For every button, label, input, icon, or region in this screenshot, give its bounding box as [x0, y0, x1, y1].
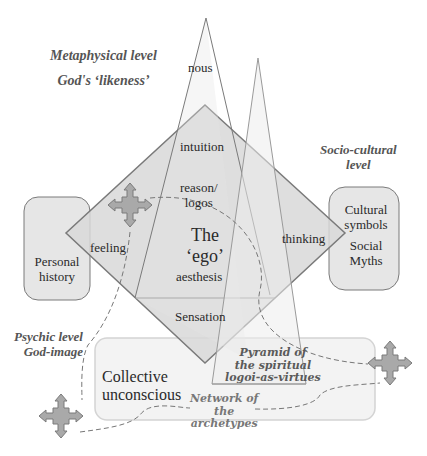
pyramid-line3: logoi-as-virtues	[225, 372, 321, 385]
sensation-label: Sensation	[175, 310, 226, 325]
social-line2: Myths	[334, 254, 398, 269]
reason-logos-label: reason/ logos	[180, 181, 218, 211]
cultural-line1: Cultural	[334, 203, 398, 218]
thinking-label: thinking	[282, 232, 325, 247]
intuition-label: intuition	[180, 140, 224, 155]
sociocultural-line1: Socio-cultural	[320, 143, 397, 158]
collective-line2: unconscious	[102, 386, 181, 404]
reason-line2: logos	[180, 196, 218, 211]
metaphysical-level-label: Metaphysical level God's ‘likeness’	[50, 48, 157, 89]
reason-line1: reason/	[180, 181, 218, 196]
ego-line2: ‘ego’	[186, 246, 224, 267]
sociocultural-line2: level	[320, 158, 397, 173]
social-line1: Social	[334, 239, 398, 254]
ego-line1: The	[186, 225, 224, 246]
psychic-level-label: Psychic level God-image	[14, 330, 83, 360]
network-line3: archetypes	[190, 418, 258, 431]
psychic-line2: God-image	[14, 345, 83, 360]
ego-label: The ‘ego’	[186, 225, 224, 266]
pyramid-line1: Pyramid of	[225, 347, 321, 360]
personal-history-line1: Personal	[28, 255, 86, 270]
aesthesis-label: aesthesis	[176, 270, 222, 285]
cultural-symbols-label: Cultural symbols Social Myths	[334, 203, 398, 269]
feeling-label: feeling	[90, 241, 126, 256]
four-way-arrow-icon	[39, 394, 83, 438]
pyramid-logoi-label: Pyramid of the spiritual logoi-as-virtue…	[225, 347, 321, 385]
nous-label: nous	[188, 61, 213, 76]
network-archetypes-label: Network of the archetypes	[190, 393, 258, 431]
collective-line1: Collective	[102, 368, 181, 386]
metaphysical-line1: Metaphysical level	[50, 48, 157, 64]
collective-unconscious-label: Collective unconscious	[102, 368, 181, 405]
cultural-line2: symbols	[334, 218, 398, 233]
network-line1: Network of	[190, 393, 258, 406]
metaphysical-line2: God's ‘likeness’	[50, 73, 157, 89]
personal-history-label: Personal history	[28, 255, 86, 285]
psychic-line1: Psychic level	[14, 330, 83, 345]
sociocultural-level-label: Socio-cultural level	[320, 143, 397, 173]
personal-history-line2: history	[28, 270, 86, 285]
